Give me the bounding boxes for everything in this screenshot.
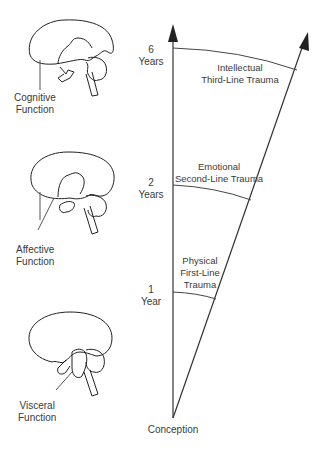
conception-label: Conception: [143, 424, 203, 436]
trauma-emotional-label: Emotional Second-Line Trauma: [174, 161, 264, 185]
arc-1-year: [173, 292, 216, 299]
diagonal-arrow-icon: [299, 32, 309, 51]
marker-6-years: 6 Years: [133, 44, 169, 68]
arc-2-years: [173, 185, 251, 200]
brain-cognitive-icon: [29, 20, 113, 96]
marker-2-years: 2 Years: [133, 177, 169, 201]
brain-visceral-icon: [29, 312, 112, 396]
affective-function-label: Affective Function: [16, 244, 54, 268]
diagonal-axis: [173, 45, 303, 418]
visceral-function-label: Visceral Function: [18, 400, 56, 424]
trauma-physical-label: Physical First-Line Trauma: [178, 255, 222, 291]
brain-affective-icon: [31, 152, 114, 234]
trauma-intellectual-label: Intellectual Third-Line Trauma: [190, 62, 290, 86]
cognitive-function-label: Cognitive Function: [14, 92, 56, 116]
marker-1-year: 1 Year: [133, 284, 169, 308]
axis-arrow-icon: [168, 24, 178, 42]
